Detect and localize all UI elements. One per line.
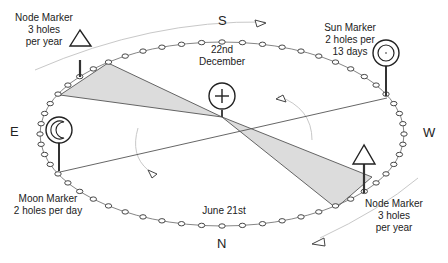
aubrey-hole [159,219,165,223]
aubrey-hole [219,224,225,228]
aubrey-hole [47,101,53,105]
aubrey-hole [47,162,53,166]
direction-south: S [218,13,227,28]
aubrey-hole [279,219,285,223]
node-marker-top-label: Node Marker 3 holes per year [14,12,74,48]
aubrey-hole [400,122,406,126]
aubrey-hole [105,60,111,64]
aubrey-hole [122,210,128,214]
sun-marker-label: Sun Marker 2 holes per 13 days [322,22,378,58]
aubrey-hole [316,210,322,214]
aubrey-hole [332,204,338,208]
direction-east: E [10,124,19,139]
direction-west: W [423,125,435,140]
aubrey-hole [122,54,128,58]
node-marker-bottom-label: Node Marker 3 holes per year [364,198,424,234]
aubrey-hole [55,92,61,96]
triangle-icon [353,145,375,164]
aubrey-hole [41,152,47,156]
aubrey-hole [348,67,354,71]
aubrey-hole [65,83,71,87]
aubrey-hole [38,142,44,146]
aubrey-hole [401,132,407,136]
aubrey-hole [198,223,204,227]
aubrey-hole [348,197,354,201]
aubrey-hole [178,42,184,46]
aubrey-hole [37,132,43,136]
aubrey-hole [396,152,402,156]
aubrey-hole [159,45,165,49]
aubrey-hole [383,172,389,176]
aubrey-hole [140,215,146,219]
direction-north: N [217,236,226,251]
aubrey-hole [298,49,304,53]
aubrey-hole [38,122,44,126]
aubrey-hole [239,223,245,227]
aubrey-hole [391,162,397,166]
aubrey-hole [178,222,184,226]
aubrey-hole [391,101,397,105]
aubrey-hole [373,83,379,87]
aubrey-hole [65,181,71,185]
aubrey-hole [373,181,379,185]
aubrey-hole [41,111,47,115]
aubrey-hole [105,204,111,208]
diagram-canvas: S N E W 22nd December June 21st Node Mar… [0,0,448,263]
aubrey-holes [37,40,407,228]
moon-marker-label: Moon Marker 2 holes per day [10,193,86,217]
aubrey-hole [90,197,96,201]
aubrey-hole [361,74,367,78]
winter-solstice-label: 22nd December [196,44,248,68]
aubrey-hole [332,60,338,64]
earth-marker [209,83,235,109]
aubrey-hole [55,172,61,176]
summer-solstice-label: June 21st [196,205,252,217]
aubrey-hole [140,49,146,53]
aubrey-hole [400,142,406,146]
aubrey-hole [90,67,96,71]
aubrey-hole [298,215,304,219]
aubrey-hole [259,222,265,226]
aubrey-hole [396,111,402,115]
aubrey-hole [279,45,285,49]
aubrey-hole [259,42,265,46]
